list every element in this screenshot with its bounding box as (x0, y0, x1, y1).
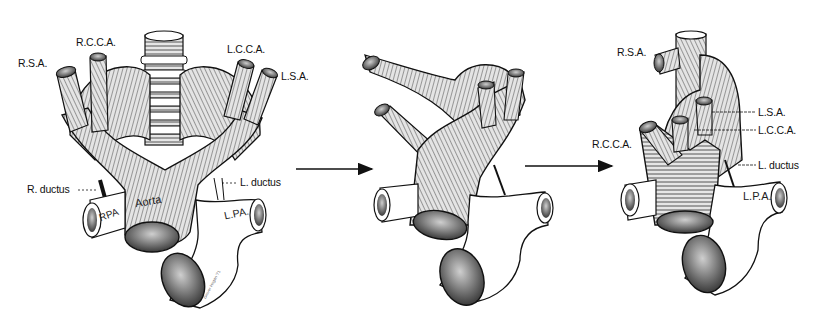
label-rsa-1: R.S.A. (18, 58, 47, 69)
label-lsa-3: L.S.A. (758, 107, 785, 118)
label-lcca-1: L.C.C.A. (227, 44, 265, 55)
label-rsa-3: R.S.A. (617, 47, 646, 58)
label-r-ductus-1: R. ductus (27, 184, 70, 195)
label-lpa-3: L.P.A. (743, 191, 772, 202)
figure: R.S.A. R.C.C.A. L.C.C.A. L.S.A. R. ductu… (0, 0, 822, 323)
label-rcca-3: R.C.C.A. (592, 139, 632, 150)
panel-1-drawing (55, 31, 279, 314)
label-lsa-1: L.S.A. (281, 71, 308, 82)
panel-2-drawing (360, 53, 553, 311)
label-l-ductus-3: L. ductus (758, 160, 799, 171)
label-lcca-3: L.C.C.A. (758, 125, 796, 136)
label-rcca-1: R.C.C.A. (76, 37, 116, 48)
label-l-ductus-1: L. ductus (240, 177, 281, 188)
illustration (0, 0, 822, 323)
